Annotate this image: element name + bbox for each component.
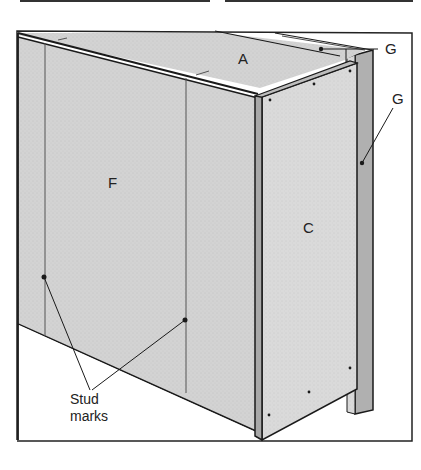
side-panel-c bbox=[255, 61, 357, 440]
label-c: C bbox=[303, 219, 314, 236]
label-g-side: G bbox=[392, 90, 404, 107]
cabinet-diagram: A F C G G Stud marks bbox=[0, 0, 421, 470]
label-g-top: G bbox=[385, 40, 397, 57]
label-a: A bbox=[238, 50, 248, 67]
label-stud: Stud bbox=[70, 391, 99, 407]
label-marks: marks bbox=[70, 408, 108, 424]
label-f: F bbox=[108, 174, 117, 191]
